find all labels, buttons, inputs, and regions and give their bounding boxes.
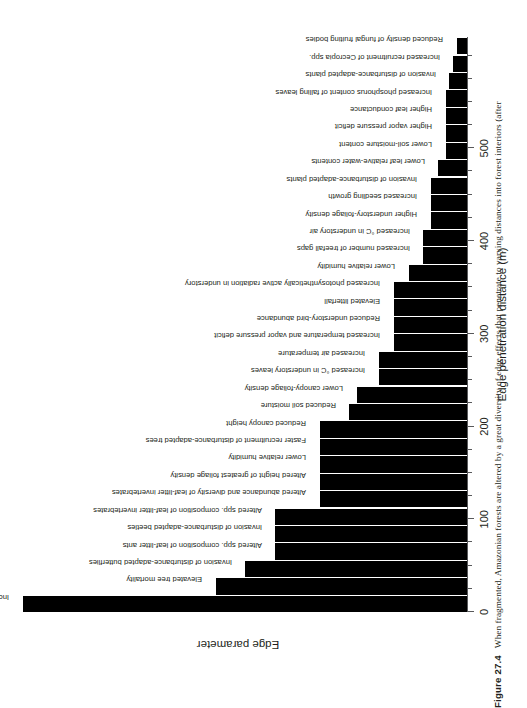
- bar-rect: [409, 265, 468, 281]
- bar-rect: [431, 195, 468, 211]
- bar-rect: [320, 421, 468, 437]
- bar-item: Increased photosynthetically active radi…: [8, 282, 468, 298]
- bar-rect: [320, 491, 468, 507]
- bar-item: Invasion of disturbance-adapted plants: [8, 178, 468, 194]
- axis-tick-minor: [468, 217, 472, 218]
- bar-item: Invasion of disturbance-adapted butterfl…: [8, 561, 468, 577]
- axis-tick-minor: [468, 170, 472, 171]
- y-axis-title: Edge parameter: [197, 639, 279, 651]
- bar-item: Reduced density of fungal fruiting bodie…: [8, 38, 468, 54]
- bar-item: Elevated tree mortality: [8, 578, 468, 594]
- bar-rect: [275, 543, 468, 559]
- bar-series: Increased wind disturbanceElevated tree …: [8, 37, 468, 612]
- bar-rect: [394, 299, 468, 315]
- axis-tick-minor: [468, 565, 472, 566]
- axis-tick-label: 400: [478, 232, 490, 250]
- bar-item: Altered abundance and diversity of leaf-…: [8, 491, 468, 507]
- axis-tick-minor: [468, 356, 472, 357]
- bar-item: Increased °C in understory air: [8, 230, 468, 246]
- figure-caption-text: When fragmented, Amazonian forests are a…: [493, 101, 503, 655]
- bar-item: Altered spp. composition of leaf-litter …: [8, 543, 468, 559]
- bar-item: Altered height of greatest foliage densi…: [8, 474, 468, 490]
- bar-rect: [275, 509, 468, 525]
- figure-caption: Figure 27.4When fragmented, Amazonian fo…: [492, 8, 503, 708]
- bar-item: Increased recruitment of Cecropia spp.: [8, 56, 468, 72]
- axis-tick-minor: [468, 402, 472, 403]
- bar-item: Reduced soil moisture: [8, 404, 468, 420]
- axis-tick-minor: [468, 310, 472, 311]
- bar-item: Faster recruitment of disturbance-adapte…: [8, 439, 468, 455]
- axis-tick-label: 500: [478, 139, 490, 157]
- figure-number: Figure 27.4: [492, 655, 503, 708]
- bar-rect: [349, 404, 468, 420]
- axis-tick-major: [468, 240, 474, 241]
- bar-rect: [394, 334, 468, 350]
- axis-tick-minor: [468, 449, 472, 450]
- axis-tick-major: [468, 333, 474, 334]
- bar-rect: [423, 247, 468, 263]
- axis-tick-minor: [468, 263, 472, 264]
- axis-tick-minor: [468, 379, 472, 380]
- bar-rect: [394, 317, 468, 333]
- bar-item: Higher understory-foliage density: [8, 212, 468, 228]
- bar-rect: [438, 160, 468, 176]
- bar-item: Elevated litterfall: [8, 299, 468, 315]
- axis-tick-major: [468, 426, 474, 427]
- bar-item: Increased wind disturbance: [8, 596, 468, 612]
- bar-rect: [431, 178, 468, 194]
- axis-tick-label: 100: [478, 510, 490, 528]
- bar-item: Increased °C in understory leaves: [8, 369, 468, 385]
- axis-tick-minor: [468, 55, 472, 56]
- bar-item: Lower relative humidity: [8, 265, 468, 281]
- bar-rect: [446, 108, 468, 124]
- bar-rect: [320, 439, 468, 455]
- axis-tick-minor: [468, 588, 472, 589]
- bar-item: Increased seedling growth: [8, 195, 468, 211]
- axis-tick-minor: [468, 78, 472, 79]
- bar-item: Reduced canopy height: [8, 421, 468, 437]
- bar-item: Lower canopy-foliage density: [8, 387, 468, 403]
- axis-tick-minor: [468, 124, 472, 125]
- axis-tick-major: [468, 147, 474, 148]
- axis-tick-major: [468, 611, 474, 612]
- bar-item: Lower leaf relative-water contents: [8, 160, 468, 176]
- bar-item: Increased air temperature: [8, 352, 468, 368]
- bar-rect: [446, 143, 468, 159]
- bar-item: Altered spp. composition of leaf-litter …: [8, 509, 468, 525]
- axis-tick-minor: [468, 194, 472, 195]
- bar-rect: [275, 526, 468, 542]
- bar-rect: [245, 561, 468, 577]
- bar-item: Higher leaf conductance: [8, 108, 468, 124]
- bar-rect: [449, 73, 468, 89]
- bar-rect: [453, 56, 468, 72]
- bar-rect: [23, 596, 468, 612]
- bar-rect: [216, 578, 468, 594]
- bar-rect: [431, 212, 468, 228]
- bar-rect: [446, 90, 468, 106]
- bar-item: Higher vapor pressure deficit: [8, 125, 468, 141]
- axis-tick-minor: [468, 286, 472, 287]
- axis-tick-minor: [468, 472, 472, 473]
- bar-rect: [379, 352, 468, 368]
- bar-rect: [320, 474, 468, 490]
- bar-rect: [446, 125, 468, 141]
- axis-tick-label: 0: [478, 609, 490, 615]
- axis-tick-major: [468, 518, 474, 519]
- bar-item: Lower soil-moisture content: [8, 143, 468, 159]
- bar-rect: [423, 230, 468, 246]
- bar-rect: [394, 282, 468, 298]
- axis-tick-label: 200: [478, 417, 490, 435]
- axis-tick-minor: [468, 495, 472, 496]
- bar-rect: [320, 456, 468, 472]
- bar-item: Lower relative humidity: [8, 456, 468, 472]
- bar-item: Reduced understory-bird abundance: [8, 317, 468, 333]
- bar-item: Increased temperature and vapor pressure…: [8, 334, 468, 350]
- figure-stage: Increased wind disturbanceElevated tree …: [0, 0, 527, 708]
- axis-tick-minor: [468, 541, 472, 542]
- bar-item: Invasion of disturbance-adapted beetles: [8, 526, 468, 542]
- bar-chart: Increased wind disturbanceElevated tree …: [8, 34, 468, 612]
- axis-tick-label: 300: [478, 325, 490, 343]
- bar-item: Increased number of treefall gaps: [8, 247, 468, 263]
- bar-label: Reduced density of fungal fruiting bodie…: [306, 36, 443, 44]
- axis-tick-minor: [468, 101, 472, 102]
